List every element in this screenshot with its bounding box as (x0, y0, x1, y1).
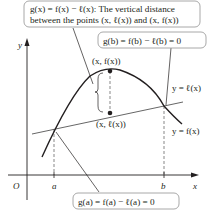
b-label: b (161, 181, 166, 191)
origin-label: O (13, 181, 20, 191)
label-point-lx: (x, ℓ(x)) (96, 119, 126, 129)
leader-ga (56, 132, 99, 192)
ga-callout-text: g(a) = f(a) − ℓ(a) = 0 (78, 197, 155, 207)
label-point-fx: (x, f(x)) (92, 56, 121, 66)
y-axis-label: y (17, 40, 22, 50)
point-fx (108, 69, 113, 74)
top-callout-line1: g(x) = f(x) − ℓ(x): The vertical distanc… (30, 4, 175, 14)
x-axis-label: x (192, 181, 197, 191)
point-lx (108, 111, 113, 116)
label-line-ell: y = ℓ(x) (172, 83, 201, 93)
gb-callout-text: g(b) = f(b) − ℓ(b) = 0 (103, 36, 182, 46)
a-label: a (52, 181, 57, 191)
top-callout-line2: between the points (x, ℓ(x)) and (x, f(x… (30, 15, 179, 25)
y-axis-arrow-icon (25, 38, 30, 46)
mvt-diagram: g(x) = f(x) − ℓ(x): The vertical distanc… (0, 0, 215, 218)
distance-brace (95, 73, 103, 112)
x-axis-arrow-icon (191, 173, 199, 178)
label-curve-f: y = f(x) (172, 126, 200, 136)
leader-gb (166, 48, 171, 105)
leader-top (73, 28, 93, 84)
